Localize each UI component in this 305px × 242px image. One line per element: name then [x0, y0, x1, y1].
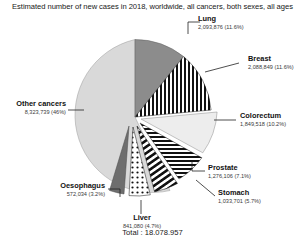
- label-other-cancers: Other cancers 8,323,739 (46%): [0, 100, 66, 115]
- label-other-cancers-name: Other cancers: [0, 100, 66, 108]
- label-lung: Lung 2,093,876 (11.6%): [198, 15, 244, 30]
- label-prostate-value: 1,276,106 (7.1%): [208, 173, 251, 179]
- label-prostate-name: Prostate: [208, 164, 251, 172]
- label-breast-name: Breast: [248, 55, 294, 63]
- label-colorectum-name: Colorectum: [240, 112, 286, 120]
- label-lung-name: Lung: [198, 15, 244, 23]
- label-colorectum: Colorectum 1,849,518 (10.2%): [240, 112, 286, 127]
- label-oesophagus-value: 572,034 (3.2%): [10, 191, 105, 197]
- label-prostate: Prostate 1,276,106 (7.1%): [208, 164, 251, 179]
- label-other-cancers-value: 8,323,739 (46%): [0, 109, 66, 115]
- label-lung-value: 2,093,876 (11.6%): [198, 24, 244, 30]
- pie-chart-figure: Estimated number of new cases in 2018, w…: [0, 0, 305, 242]
- label-oesophagus-name: Oesophagus: [10, 182, 105, 190]
- label-stomach: Stomach 1,033,701 (5.7%): [218, 189, 261, 204]
- label-oesophagus: Oesophagus 572,034 (3.2%): [10, 182, 105, 197]
- label-colorectum-value: 1,849,518 (10.2%): [240, 121, 286, 127]
- label-liver: Liver 841,080 (4.7%): [112, 214, 172, 229]
- label-breast: Breast 2,088,849 (11.6%): [248, 55, 294, 70]
- label-breast-value: 2,088,849 (11.6%): [248, 64, 294, 70]
- label-stomach-value: 1,033,701 (5.7%): [218, 198, 261, 204]
- label-stomach-name: Stomach: [218, 189, 261, 197]
- label-liver-name: Liver: [112, 214, 172, 222]
- chart-total: Total : 18.078.957: [0, 228, 305, 237]
